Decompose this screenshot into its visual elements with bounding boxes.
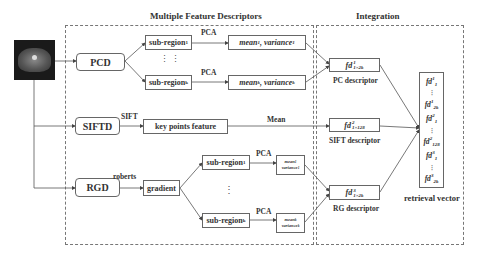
rgd-subregion-k-label: sub-region — [206, 216, 242, 225]
pcd-mean-variance-k: meank, variancek — [228, 75, 306, 90]
retrieval-entry: fd11 — [426, 76, 437, 87]
pcd-node: PCD — [76, 53, 125, 71]
sift-descriptor-caption: SIFT descriptor — [329, 136, 380, 145]
siftd-node: SIFTD — [75, 117, 120, 135]
mean-text: mean — [284, 159, 294, 164]
mean-text: mean — [239, 78, 257, 87]
variance-text: , variance — [260, 38, 292, 47]
pc-descriptor-box: fd11×2k — [329, 58, 380, 72]
pcd-pca-label-k: PCA — [201, 68, 216, 77]
mean-text: mean — [284, 217, 294, 222]
fd-sub: 1×2k — [353, 65, 363, 70]
pcd-subregion-k-label: sub-region — [149, 78, 185, 87]
rgd-subregion-k-index: k — [243, 218, 246, 223]
variance-text: , variance — [260, 78, 292, 87]
sift-edge-label: SIFT — [121, 112, 138, 121]
key-points-feature-label: key points feature — [155, 122, 216, 131]
retrieval-entry: fd32k — [425, 173, 439, 184]
mean-text: mean — [239, 38, 257, 47]
rg-descriptor-box: fd31×2k — [329, 185, 380, 200]
pcd-pca-label-1: PCA — [201, 28, 216, 37]
siftd-label: SIFTD — [83, 121, 112, 132]
retrieval-entry: fd21 — [426, 113, 437, 124]
pcd-subregion-1: sub-region1 — [145, 35, 192, 50]
fd-text: fd — [345, 61, 352, 70]
pcd-subregion-1-label: sub-region — [149, 38, 185, 47]
rgd-subregion-1: sub-region1 — [202, 155, 250, 170]
retrieval-entry: fd31 — [426, 150, 437, 161]
pcd-ellipsis: ⋮ ⋮ — [160, 54, 180, 64]
variance-index: 1 — [298, 166, 300, 170]
fd-text: fd — [345, 188, 352, 197]
sift-descriptor-box: fd21×128 — [329, 118, 380, 132]
variance-text: variance — [282, 223, 298, 228]
fd-text: fd — [344, 121, 351, 130]
pcd-label: PCD — [90, 57, 111, 68]
variance-index: k — [298, 224, 300, 228]
rgd-subregion-k: sub-regionk — [202, 213, 250, 228]
roberts-edge-label: roberts — [113, 172, 136, 181]
retrieval-vector-caption: retrieval vector — [404, 193, 460, 203]
rgd-mean-variance-k: meank variancek — [276, 213, 305, 233]
retrieval-vector-box: fd11 ⋮ fd12k fd21 ⋮ fd2128 fd31 ⋮ fd32k — [419, 72, 444, 188]
retrieval-entry: fd12k — [425, 99, 439, 110]
mean-index: k — [295, 218, 297, 222]
gradient-label: gradient — [147, 184, 176, 193]
rgd-subregion-1-index: 1 — [243, 160, 246, 165]
vertical-ellipsis: ⋮ — [429, 165, 435, 170]
variance-text: variance — [282, 165, 298, 170]
fd-sub: 1×128 — [352, 125, 365, 130]
variance-index: k — [292, 80, 295, 85]
rgd-subregion-1-label: sub-region — [207, 158, 243, 167]
mean-index: 1 — [295, 160, 297, 164]
pcd-subregion-k: sub-regionk — [145, 75, 192, 90]
pcd-subregion-k-index: k — [185, 80, 188, 85]
rgd-pca-label-1: PCA — [256, 149, 271, 158]
rgd-mean-variance-1: mean1 variance1 — [276, 155, 305, 175]
pc-descriptor-caption: PC descriptor — [333, 76, 378, 85]
pcd-mean-variance-1: mean1, variance1 — [228, 35, 306, 50]
fd-sub: 1×2k — [353, 193, 363, 198]
vertical-ellipsis: ⋮ — [429, 90, 435, 95]
mean-edge-label: Mean — [267, 115, 285, 124]
key-points-feature-box: key points feature — [143, 119, 228, 134]
rgd-pca-label-k: PCA — [256, 207, 271, 216]
rgd-ellipsis: ⋮ — [224, 184, 234, 195]
gradient-box: gradient — [143, 180, 180, 196]
ct-scan-image — [14, 40, 55, 80]
retrieval-entry: fd2128 — [423, 136, 439, 147]
rgd-label: RGD — [86, 182, 108, 193]
vertical-ellipsis: ⋮ — [429, 128, 435, 133]
pcd-subregion-1-index: 1 — [185, 40, 188, 45]
rg-descriptor-caption: RG descriptor — [333, 204, 379, 213]
variance-index: 1 — [292, 40, 295, 45]
